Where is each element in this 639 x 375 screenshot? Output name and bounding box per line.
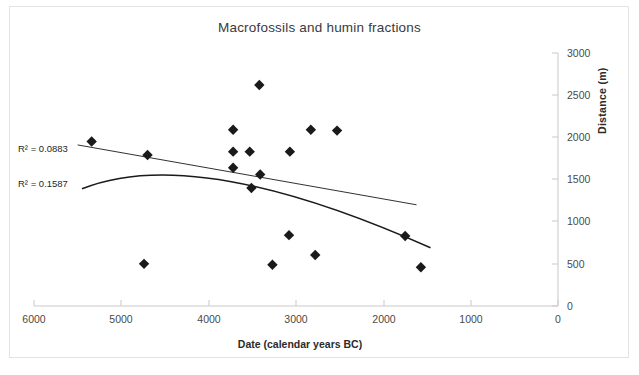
y-axis-label: Distance (m) xyxy=(596,14,608,134)
data-point-marker xyxy=(332,125,342,135)
xtick-label: 0 xyxy=(555,313,561,325)
ytick-label: 1500 xyxy=(567,173,590,185)
y-axis xyxy=(552,53,558,306)
ytick-label: 2000 xyxy=(567,131,590,143)
data-point-marker xyxy=(142,150,152,160)
ytick-label: 1000 xyxy=(567,215,590,227)
xtick-label: 6000 xyxy=(22,313,45,325)
trendlines xyxy=(78,145,431,248)
ytick-label: 0 xyxy=(567,300,573,312)
r2-polynomial-annotation: R² = 0.1587 xyxy=(18,178,68,189)
data-point-marker xyxy=(416,262,426,272)
data-point-marker xyxy=(400,231,410,241)
data-point-marker xyxy=(310,250,320,260)
xtick-label: 3000 xyxy=(284,313,307,325)
r2-linear-annotation: R² = 0.0883 xyxy=(18,143,68,154)
data-point-marker xyxy=(267,259,277,269)
data-point-marker xyxy=(285,146,295,156)
data-point-marker xyxy=(254,80,264,90)
data-point-marker xyxy=(86,136,96,146)
data-point-marker xyxy=(228,125,238,135)
xtick-label: 1000 xyxy=(459,313,482,325)
y-axis-label-text: Distance (m) xyxy=(596,14,608,134)
ytick-label: 3000 xyxy=(567,47,590,59)
data-point-marker xyxy=(245,146,255,156)
xtick-label: 4000 xyxy=(197,313,220,325)
xtick-label: 5000 xyxy=(109,313,132,325)
data-point-marker xyxy=(139,259,149,269)
data-point-marker xyxy=(306,125,316,135)
chart-figure: Macrofossils and humin fractions xyxy=(0,0,639,375)
r2-linear-text: R² = 0.0883 xyxy=(18,143,68,154)
data-point-marker xyxy=(284,230,294,240)
ytick-label: 2500 xyxy=(567,89,590,101)
r2-polynomial-text: R² = 0.1587 xyxy=(18,178,68,189)
data-point-marker xyxy=(228,146,238,156)
plot-canvas xyxy=(0,0,639,375)
x-axis xyxy=(34,300,558,306)
polynomial-trendline xyxy=(82,175,430,248)
xtick-label: 2000 xyxy=(372,313,395,325)
ytick-label: 500 xyxy=(567,258,585,270)
x-axis-label: Date (calendar years BC) xyxy=(0,338,600,350)
